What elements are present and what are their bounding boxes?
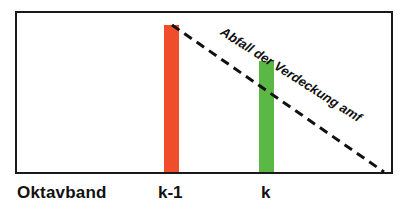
x-tick-k: k [261,183,270,203]
x-axis-title: Oktavband [17,183,107,203]
masking-decay-dashed-line [172,25,384,172]
x-tick-k-minus-1: k-1 [158,183,183,203]
masking-diagram: Abfall der Verdeckung amf Oktavband k-1 … [0,0,403,211]
